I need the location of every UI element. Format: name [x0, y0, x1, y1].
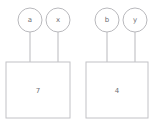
- box-left-label: 7: [36, 87, 40, 95]
- diagram-group-right: 4 b y: [86, 8, 148, 118]
- diagram-group-left: 7 a x: [6, 8, 70, 118]
- diagram-svg: 7 a x 4 b y: [0, 0, 156, 125]
- box-right-label: 4: [115, 87, 120, 95]
- node-a-label: a: [28, 16, 32, 24]
- diagram-canvas: 7 a x 4 b y: [0, 0, 156, 125]
- node-x-label: x: [56, 16, 60, 24]
- node-b-label: b: [105, 16, 110, 24]
- node-y-label: y: [133, 16, 137, 24]
